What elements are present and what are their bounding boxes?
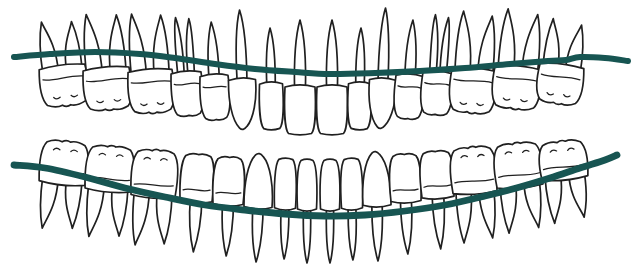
mandibular-arch-tooth-12-premolar: [389, 153, 424, 254]
crown: [259, 82, 284, 130]
root: [266, 28, 276, 88]
root: [61, 21, 83, 71]
maxillary-arch-tooth-4-premolar2: [166, 16, 204, 117]
root: [206, 22, 219, 80]
crown: [317, 85, 348, 135]
maxillary-arch-tooth-1-molar: [32, 17, 90, 109]
root: [84, 184, 104, 237]
root: [127, 13, 147, 76]
crown: [368, 78, 397, 129]
root: [150, 15, 169, 75]
crown: [389, 153, 422, 203]
crown: [38, 138, 91, 187]
root: [108, 186, 128, 236]
maxillary-arch-tooth-3-molar: [123, 12, 176, 116]
root: [173, 17, 184, 77]
crown: [362, 151, 391, 207]
crown: [244, 153, 274, 209]
root: [130, 191, 149, 246]
crown: [228, 78, 257, 130]
maxillary-arch-tooth-9-central-incisor: [317, 20, 348, 135]
dental-arches-illustration: [0, 0, 637, 278]
crown: [285, 85, 316, 135]
crown: [274, 158, 297, 210]
dental-diagram: [0, 0, 637, 278]
root: [235, 10, 248, 84]
crown: [448, 67, 497, 116]
mandibular-arch: [33, 138, 593, 263]
root: [432, 193, 447, 250]
root: [294, 20, 305, 91]
crown: [82, 65, 134, 113]
mandibular-arch-tooth-11-canine: [362, 151, 392, 261]
crown: [199, 73, 231, 121]
crown: [419, 150, 455, 200]
crown: [212, 156, 245, 206]
maxillary-arch-tooth-5-premolar: [196, 21, 231, 121]
crown: [449, 145, 498, 196]
crown: [127, 68, 176, 116]
root: [455, 11, 475, 74]
maxillary-arch-tooth-8-central-incisor: [285, 20, 316, 135]
mandibular-arch-tooth-10-lateral-incisor: [340, 158, 364, 260]
crown: [320, 159, 340, 211]
root: [400, 197, 413, 254]
crown: [179, 153, 215, 204]
root: [326, 20, 337, 91]
mandibular-arch-tooth-8-central-incisor: [297, 159, 317, 263]
maxillary-arch-tooth-7-lateral-incisor: [258, 28, 284, 130]
root: [372, 201, 383, 261]
root: [356, 28, 366, 88]
maxillary-arch-tooth-2-molar: [77, 11, 133, 112]
crown: [340, 158, 363, 210]
crown: [297, 159, 317, 211]
root: [61, 179, 82, 228]
mandibular-arch-tooth-1-molar: [33, 138, 90, 232]
crown: [490, 64, 542, 112]
root: [105, 14, 126, 72]
crown: [534, 61, 585, 107]
root: [184, 19, 195, 77]
mandibular-arch-tooth-9-central-incisor: [320, 159, 340, 263]
mandibular-arch-tooth-7-lateral-incisor: [273, 158, 297, 259]
